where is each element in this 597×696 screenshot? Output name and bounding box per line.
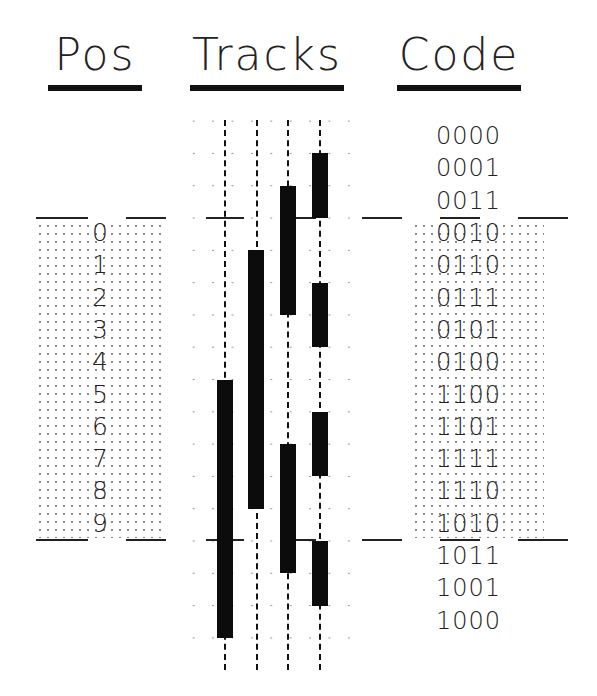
gray-code: 0110 xyxy=(436,249,501,281)
position-number: 4 xyxy=(80,346,120,378)
track-2-bar xyxy=(248,250,264,508)
header-code: Code xyxy=(397,30,521,80)
track-4-bar xyxy=(312,153,328,218)
top-boundary-right xyxy=(518,217,568,219)
gray-code: 0111 xyxy=(436,282,501,314)
track-3-bar xyxy=(280,444,296,573)
gray-code: 1110 xyxy=(436,475,501,507)
header-pos: Pos xyxy=(48,30,142,80)
position-number: 3 xyxy=(80,314,120,346)
gray-code: 0001 xyxy=(436,152,501,184)
gray-code: 1010 xyxy=(436,508,501,540)
position-number: 7 xyxy=(80,443,120,475)
bottom-boundary-mid xyxy=(362,539,402,541)
position-number: 8 xyxy=(80,475,120,507)
header-tracks-underline xyxy=(190,85,344,91)
gray-code: 1100 xyxy=(436,379,501,411)
gray-code: 1101 xyxy=(436,411,501,443)
gray-code: 0000 xyxy=(436,120,501,152)
bottom-boundary-left-2 xyxy=(126,539,166,541)
top-boundary-left-2 xyxy=(126,217,166,219)
header-tracks: Tracks xyxy=(190,30,344,80)
gray-code: 0011 xyxy=(436,185,501,217)
track-1-bar xyxy=(217,380,233,638)
top-boundary-mid xyxy=(362,217,402,219)
position-number: 2 xyxy=(80,282,120,314)
bottom-boundary-right xyxy=(518,539,568,541)
track-4-bar xyxy=(312,283,328,348)
gray-code: 1001 xyxy=(436,572,501,604)
position-number: 5 xyxy=(80,379,120,411)
position-number: 9 xyxy=(80,508,120,540)
position-number: 0 xyxy=(80,217,120,249)
header-code-underline xyxy=(397,85,521,91)
tracks-grid-dots xyxy=(184,105,364,655)
gray-code: 0101 xyxy=(436,314,501,346)
track-3-bar xyxy=(280,186,296,315)
gray-code: 1111 xyxy=(436,443,501,475)
header-pos-underline xyxy=(48,85,142,91)
gray-code: 0100 xyxy=(436,346,501,378)
track-4-bar xyxy=(312,541,328,606)
gray-code: 1000 xyxy=(436,605,501,637)
gray-code: 1011 xyxy=(436,540,501,572)
position-number: 1 xyxy=(80,249,120,281)
position-number: 6 xyxy=(80,411,120,443)
gray-code: 0010 xyxy=(436,217,501,249)
track-4-bar xyxy=(312,412,328,477)
